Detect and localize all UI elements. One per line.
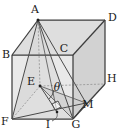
vertex-label-H: H bbox=[107, 72, 117, 85]
vertex-label-C: C bbox=[60, 42, 68, 55]
vertex-label-F: F bbox=[1, 115, 9, 128]
vertex-label-E: E bbox=[27, 75, 35, 88]
cube-pyramid-diagram: A B C D E F G H I M θ bbox=[0, 0, 119, 131]
vertex-label-A: A bbox=[30, 3, 40, 16]
vertex-label-I: I bbox=[46, 118, 50, 131]
geometry-figure: A B C D E F G H I M θ bbox=[0, 0, 119, 131]
vertex-dot-A bbox=[37, 19, 40, 22]
vertex-dot-I bbox=[56, 111, 59, 114]
angle-label-theta: θ bbox=[54, 81, 61, 93]
vertex-label-G: G bbox=[72, 118, 81, 131]
vertex-label-D: D bbox=[108, 11, 117, 24]
vertex-label-M: M bbox=[82, 98, 93, 111]
vertex-dot-E bbox=[39, 85, 42, 88]
vertex-label-B: B bbox=[2, 48, 10, 61]
